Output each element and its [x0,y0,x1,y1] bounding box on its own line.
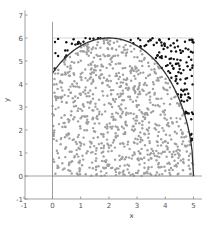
x-tick-label: 5 [191,202,195,210]
y-tick-label: 6 [19,35,24,43]
y-axis: -101234567 [16,10,27,203]
y-tick-label: 0 [19,173,23,181]
x-tick-label: 1 [78,202,82,210]
y-axis-label: y [3,98,11,102]
x-axis: -1012345 [21,197,202,211]
x-tick-label: 0 [50,202,54,210]
plot-area [24,22,202,199]
y-tick-label: 7 [19,12,23,20]
y-tick-label: 1 [19,150,23,158]
outside-points [54,37,195,142]
y-tick-label: 5 [19,58,23,66]
x-axis-label: x [129,212,133,220]
y-tick-label: 4 [19,81,24,89]
y-tick-label: 2 [19,127,23,135]
x-tick-label: -1 [21,202,28,210]
scatter-chart: -101234567 -1012345 x y [0,0,212,231]
x-tick-label: 4 [163,202,168,210]
y-tick-label: 3 [19,104,23,112]
x-tick-label: 2 [107,202,111,210]
x-tick-label: 3 [135,202,139,210]
